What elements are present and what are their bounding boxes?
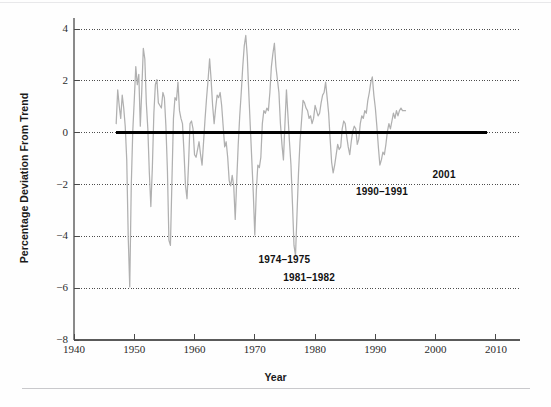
- y-tick-label-2: 0: [42, 126, 68, 138]
- annotation-recession-1981-1982: 1981–1982: [283, 272, 335, 283]
- x-tick-label-1950: 1950: [112, 343, 156, 355]
- x-tick-label-1970: 1970: [233, 343, 277, 355]
- chart-figure: Percentage Deviation From Trend Year 194…: [0, 0, 551, 407]
- y-tick-label-5: −6: [42, 281, 68, 293]
- x-axis-title: Year: [0, 371, 551, 383]
- x-tick-label-2000: 2000: [414, 343, 458, 355]
- x-tick-label-1990: 1990: [353, 343, 397, 355]
- y-axis-title: Percentage Deviation From Trend: [18, 58, 30, 298]
- y-tick-label-1: 2: [42, 74, 68, 86]
- annotation-recession-1974-1975: 1974–1975: [258, 254, 310, 265]
- x-tick-label-1960: 1960: [173, 343, 217, 355]
- y-tick-label-6: −8: [42, 333, 68, 345]
- annotation-recession-2001: 2001: [433, 169, 456, 180]
- y-tick-label-0: 4: [42, 22, 68, 34]
- annotation-recession-1990-1991: 1990–1991: [356, 186, 408, 197]
- y-tick-label-4: −4: [42, 229, 68, 241]
- x-tick-label-2010: 2010: [474, 343, 518, 355]
- data-series-0: [116, 35, 405, 286]
- x-tick-label-1980: 1980: [293, 343, 337, 355]
- y-tick-label-3: −2: [42, 178, 68, 190]
